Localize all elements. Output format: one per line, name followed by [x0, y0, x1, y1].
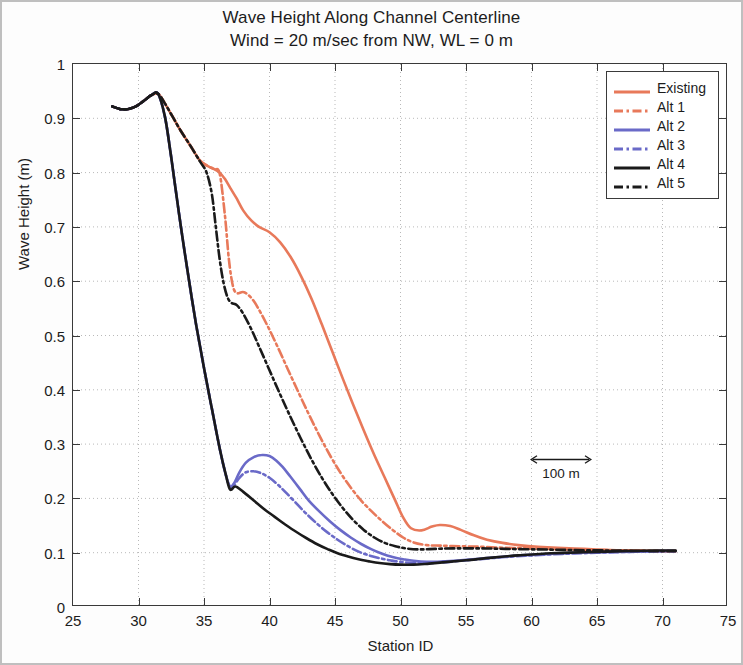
legend-label: Alt 4: [657, 156, 685, 172]
x-tick-label: 50: [392, 612, 409, 629]
scale-bar-arrow: [528, 454, 594, 465]
legend-item-alt-2[interactable]: Alt 2: [614, 116, 711, 135]
x-tick-label: 75: [720, 612, 737, 629]
y-tick-mark: [73, 498, 80, 499]
legend-item-alt-1[interactable]: Alt 1: [614, 97, 711, 116]
x-tick-mark: [663, 64, 664, 71]
x-tick-label: 65: [589, 612, 606, 629]
scale-bar-label: 100 m: [528, 466, 594, 481]
chart-legend: ExistingAlt 1Alt 2Alt 3Alt 4Alt 5: [606, 71, 719, 199]
legend-item-alt-3[interactable]: Alt 3: [614, 135, 711, 154]
x-tick-mark: [663, 598, 664, 605]
x-tick-mark: [335, 598, 336, 605]
y-tick-mark: [73, 444, 80, 445]
legend-label: Alt 3: [657, 137, 685, 153]
y-tick-label: 0.7: [44, 218, 65, 235]
x-tick-label: 60: [523, 612, 540, 629]
x-tick-mark: [466, 598, 467, 605]
x-tick-label: 55: [458, 612, 475, 629]
x-tick-mark: [335, 64, 336, 71]
y-tick-label: 1: [57, 56, 65, 73]
x-tick-mark: [401, 598, 402, 605]
y-tick-mark: [73, 336, 80, 337]
y-tick-mark: [719, 281, 726, 282]
y-tick-label: 0.6: [44, 273, 65, 290]
y-tick-label: 0.9: [44, 110, 65, 127]
y-tick-label: 0.8: [44, 164, 65, 181]
y-tick-label: 0.1: [44, 544, 65, 561]
x-tick-mark: [139, 64, 140, 71]
x-tick-mark: [204, 598, 205, 605]
legend-label: Existing: [657, 80, 706, 96]
y-tick-mark: [73, 173, 80, 174]
y-tick-label: 0.5: [44, 327, 65, 344]
x-axis-label: Station ID: [73, 637, 728, 654]
x-tick-mark: [532, 64, 533, 71]
y-tick-mark: [719, 173, 726, 174]
legend-item-existing[interactable]: Existing: [614, 78, 711, 97]
x-tick-label: 45: [327, 612, 344, 629]
plot-area: Wave Height (m) Station ID 00.10.20.30.4…: [72, 63, 727, 606]
scale-bar-annotation: 100 m: [528, 454, 594, 481]
x-tick-label: 70: [654, 612, 671, 629]
x-tick-mark: [532, 598, 533, 605]
x-tick-label: 40: [261, 612, 278, 629]
y-tick-mark: [719, 118, 726, 119]
chart-title-line-1: Wave Height Along Channel Centerline: [0, 6, 743, 29]
x-tick-mark: [597, 598, 598, 605]
legend-item-alt-5[interactable]: Alt 5: [614, 173, 711, 192]
x-tick-mark: [401, 64, 402, 71]
y-tick-mark: [719, 336, 726, 337]
y-tick-mark: [719, 553, 726, 554]
y-tick-mark: [719, 498, 726, 499]
y-tick-label: 0.4: [44, 381, 65, 398]
chart-page: Wave Height Along Channel Centerline Win…: [0, 0, 743, 665]
x-tick-mark: [139, 598, 140, 605]
y-tick-label: 0.2: [44, 490, 65, 507]
y-tick-mark: [73, 281, 80, 282]
y-tick-mark: [719, 444, 726, 445]
x-tick-label: 25: [65, 612, 82, 629]
x-tick-mark: [270, 64, 271, 71]
y-axis-label: Wave Height (m): [15, 114, 32, 314]
chart-title-line-2: Wind = 20 m/sec from NW, WL = 0 m: [0, 29, 743, 52]
x-tick-mark: [204, 64, 205, 71]
legend-label: Alt 1: [657, 99, 685, 115]
y-tick-mark: [719, 390, 726, 391]
y-tick-label: 0.3: [44, 436, 65, 453]
x-tick-label: 35: [196, 612, 213, 629]
legend-label: Alt 2: [657, 118, 685, 134]
legend-item-alt-4[interactable]: Alt 4: [614, 154, 711, 173]
x-tick-mark: [466, 64, 467, 71]
x-tick-mark: [270, 598, 271, 605]
y-tick-mark: [73, 553, 80, 554]
y-tick-mark: [719, 227, 726, 228]
legend-label: Alt 5: [657, 175, 685, 191]
x-tick-mark: [597, 64, 598, 71]
y-tick-mark: [73, 390, 80, 391]
chart-title: Wave Height Along Channel Centerline Win…: [0, 6, 743, 52]
x-tick-label: 30: [130, 612, 147, 629]
y-tick-mark: [73, 227, 80, 228]
y-tick-mark: [73, 118, 80, 119]
